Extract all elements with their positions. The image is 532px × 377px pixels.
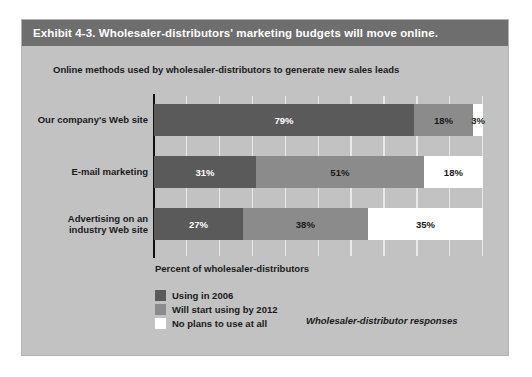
- bar-segment: 3%: [473, 104, 483, 136]
- legend-item: No plans to use at all: [155, 316, 278, 330]
- legend-label: Will start using by 2012: [172, 304, 278, 315]
- bar-segment: 18%: [414, 104, 473, 136]
- bar-segment: 35%: [368, 208, 483, 240]
- exhibit-title-bar: Exhibit 4-3. Wholesaler-distributors' ma…: [22, 20, 508, 46]
- bar-value-label: 38%: [296, 219, 315, 230]
- bar-segment: 79%: [154, 104, 414, 136]
- category-axis-labels: Our company's Web siteE-mail marketingAd…: [30, 100, 148, 252]
- bar-row: 79%18%3%: [154, 104, 483, 136]
- legend-swatch-icon: [155, 290, 166, 301]
- legend-swatch-icon: [155, 304, 166, 315]
- bar-segment: 18%: [424, 156, 483, 188]
- chart-legend: Using in 2006Will start using by 2012No …: [155, 288, 278, 330]
- bar-value-label: 35%: [416, 219, 435, 230]
- category-label-line: E-mail marketing: [30, 166, 148, 178]
- bar-value-label: 3%: [471, 115, 485, 126]
- bar-segment: 38%: [243, 208, 368, 240]
- bar-row: 27%38%35%: [154, 208, 483, 240]
- value-axis-caption: Percent of wholesaler-distributors: [155, 263, 309, 274]
- bar-row: 31%51%18%: [154, 156, 483, 188]
- source-note: Wholesaler-distributor responses: [306, 315, 458, 326]
- legend-item: Using in 2006: [155, 288, 278, 302]
- category-label-line: industry Web site: [30, 224, 148, 236]
- legend-item: Will start using by 2012: [155, 302, 278, 316]
- bar-value-label: 18%: [434, 115, 453, 126]
- category-label: Advertising on anindustry Web site: [30, 213, 148, 236]
- category-label: E-mail marketing: [30, 166, 148, 178]
- legend-swatch-icon: [155, 318, 166, 329]
- chart-subtitle: Online methods used by wholesaler-distri…: [53, 64, 399, 75]
- exhibit-panel: Exhibit 4-3. Wholesaler-distributors' ma…: [22, 20, 508, 355]
- bar-value-label: 31%: [195, 167, 214, 178]
- bar-value-label: 79%: [274, 115, 293, 126]
- bar-segment: 51%: [256, 156, 424, 188]
- category-label: Our company's Web site: [30, 114, 148, 126]
- bar-segment: 27%: [154, 208, 243, 240]
- bar-segment: 31%: [154, 156, 256, 188]
- legend-label: No plans to use at all: [172, 318, 267, 329]
- bar-value-label: 27%: [189, 219, 208, 230]
- bar-value-label: 51%: [330, 167, 349, 178]
- category-label-line: Our company's Web site: [30, 114, 148, 126]
- category-label-line: Advertising on an: [30, 213, 148, 225]
- plot-area: 79%18%3%31%51%18%27%38%35%: [153, 100, 482, 252]
- bar-value-label: 18%: [444, 167, 463, 178]
- legend-label: Using in 2006: [172, 290, 233, 301]
- exhibit-title: Exhibit 4-3. Wholesaler-distributors' ma…: [22, 27, 438, 39]
